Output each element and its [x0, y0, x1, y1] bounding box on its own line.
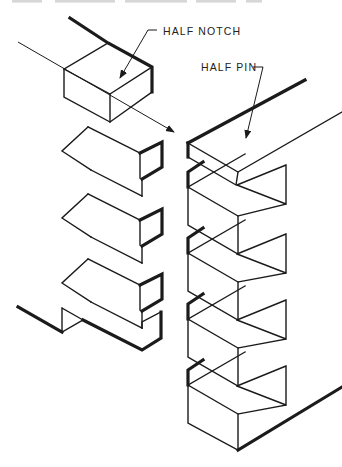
pin-board — [188, 80, 342, 450]
cropped-top-text — [12, 0, 262, 3]
notch-board — [18, 18, 162, 350]
dovetail-joint-figure: HALF NOTCH HALF PIN — [0, 0, 342, 467]
notch-board-bottom-edge — [18, 307, 62, 332]
pin-board-bottom-edge — [238, 387, 342, 450]
pin-board-top-edge — [188, 80, 305, 143]
dovetail-joint-drawing: HALF NOTCH HALF PIN — [0, 0, 342, 467]
half-pin-label: HALF PIN — [201, 61, 257, 73]
half-notch-label: HALF NOTCH — [163, 25, 241, 37]
notch-board-top-silhouette — [70, 18, 152, 92]
